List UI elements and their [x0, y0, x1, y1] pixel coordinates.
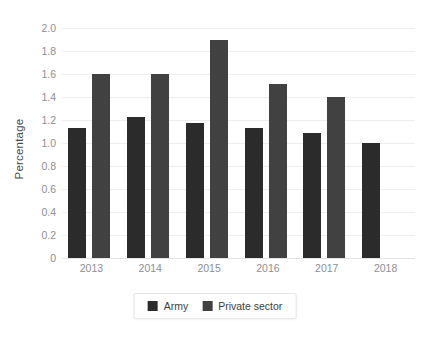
- legend-swatch-icon: [202, 301, 212, 311]
- bar[interactable]: [245, 128, 263, 258]
- chart-legend: ArmyPrivate sector: [134, 293, 297, 319]
- bar[interactable]: [210, 40, 228, 259]
- legend-item[interactable]: Army: [148, 300, 189, 312]
- bar-group: [62, 28, 121, 258]
- y-axis-tick-label: 1.4: [16, 92, 56, 103]
- bar-group: [297, 28, 356, 258]
- x-axis-tick-label: 2014: [122, 262, 178, 274]
- bar[interactable]: [68, 128, 86, 258]
- x-axis-tick-labels: 201320142015201620172018: [62, 262, 415, 278]
- plot-area: 00.20.40.60.81.01.21.41.61.82.0: [62, 28, 415, 258]
- bar[interactable]: [186, 123, 204, 258]
- bar-group: [121, 28, 180, 258]
- x-axis-tick-label: 2013: [63, 262, 119, 274]
- x-axis-tick-label: 2015: [181, 262, 237, 274]
- y-axis-tick-label: 0: [16, 253, 56, 264]
- y-axis-tick-label: 0.6: [16, 184, 56, 195]
- bar[interactable]: [127, 117, 145, 258]
- bar[interactable]: [92, 74, 110, 258]
- bar[interactable]: [151, 74, 169, 258]
- y-axis-tick-label: 0.4: [16, 207, 56, 218]
- legend-label: Private sector: [218, 300, 282, 312]
- y-axis-tick-label: 1.2: [16, 115, 56, 126]
- bar[interactable]: [303, 133, 321, 258]
- x-axis-tick-label: 2016: [240, 262, 296, 274]
- y-axis-tick-label: 1.8: [16, 46, 56, 57]
- y-axis-tick-label: 1.0: [16, 138, 56, 149]
- legend-item[interactable]: Private sector: [202, 300, 282, 312]
- x-axis-tick-label: 2018: [358, 262, 414, 274]
- bar-chart: Percentage 00.20.40.60.81.01.21.41.61.82…: [0, 0, 430, 340]
- bar[interactable]: [269, 84, 287, 258]
- bar[interactable]: [362, 143, 380, 258]
- bar-group: [356, 28, 415, 258]
- y-axis-tick-label: 2.0: [16, 23, 56, 34]
- bar-group: [180, 28, 239, 258]
- gridline: [62, 258, 415, 259]
- x-axis-tick-label: 2017: [299, 262, 355, 274]
- legend-label: Army: [164, 300, 189, 312]
- bar[interactable]: [327, 97, 345, 258]
- y-axis-tick-label: 1.6: [16, 69, 56, 80]
- bar-series-container: [62, 28, 415, 258]
- bar-group: [239, 28, 298, 258]
- y-axis-tick-label: 0.2: [16, 230, 56, 241]
- y-axis-tick-label: 0.8: [16, 161, 56, 172]
- legend-swatch-icon: [148, 301, 158, 311]
